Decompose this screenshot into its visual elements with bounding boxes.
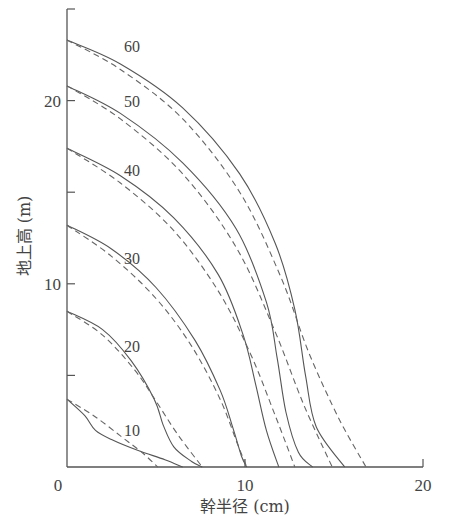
curve-age-10-model [67,399,158,467]
curve-label-40: 40 [124,162,140,179]
curve-label-50: 50 [124,93,140,110]
x-tick-label: 0 [54,476,63,495]
curve-label-20: 20 [124,338,140,355]
y-tick-label: 10 [44,275,61,294]
curve-label-10: 10 [124,422,140,439]
curve-age-60-model [67,40,366,467]
curve-age-20-observed [67,311,202,467]
curve-label-60: 60 [124,38,140,55]
axes [67,9,423,467]
stem-profile-chart: 102001020 605040302010 幹半径 (cm) 地上高 (m) [0,0,451,528]
curve-label-30: 30 [124,250,140,267]
curve-age-30-model [67,225,247,467]
curve-age-50-model [67,86,332,467]
curve-age-50-observed [67,86,313,467]
curve-age-40-model [67,148,295,467]
curve-age-20-model [67,311,202,467]
curve-age-30-observed [67,225,247,467]
x-tick-label: 10 [237,476,254,495]
curves [67,40,366,467]
x-tick-label: 20 [415,476,432,495]
x-axis-title: 幹半径 (cm) [200,497,290,516]
y-axis-title: 地上高 (m) [15,196,34,277]
y-tick-label: 20 [44,92,61,111]
curve-labels: 605040302010 [124,38,140,440]
